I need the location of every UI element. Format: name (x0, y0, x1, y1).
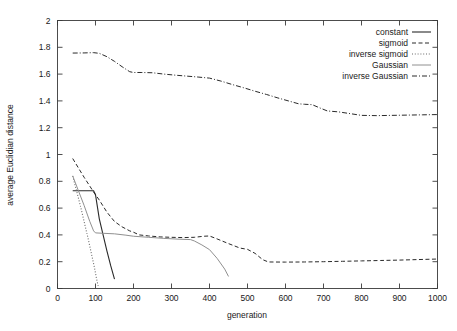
x-tick-label: 1000 (428, 293, 447, 303)
legend-label-inverse-gaussian: inverse Gaussian (342, 71, 408, 81)
x-tick-label: 500 (240, 293, 254, 303)
x-tick-label: 200 (126, 293, 140, 303)
x-tick-label: 800 (354, 293, 368, 303)
series-line-gaussian (73, 176, 229, 277)
line-chart: 00.20.40.60.811.21.41.61.82 010020030040… (0, 0, 457, 331)
legend-label-sigmoid: sigmoid (379, 38, 409, 48)
series-line-sigmoid (73, 159, 438, 263)
x-tick-label: 100 (88, 293, 102, 303)
x-tick-label: 900 (392, 293, 406, 303)
x-tick-label: 700 (316, 293, 330, 303)
legend-label-inverse-sigmoid: inverse sigmoid (349, 49, 408, 59)
y-tick-label: 0.2 (39, 257, 51, 267)
y-tick-label: 0.8 (39, 176, 51, 186)
x-tick-label: 300 (164, 293, 178, 303)
y-tick-label: 0.4 (39, 230, 51, 240)
chart-figure: 00.20.40.60.811.21.41.61.82 010020030040… (0, 0, 457, 331)
data-series-group (73, 53, 438, 286)
y-tick-label: 0.6 (39, 203, 51, 213)
y-tick-label: 0 (46, 284, 51, 294)
x-tick-label: 0 (55, 293, 60, 303)
x-tick-label: 600 (278, 293, 292, 303)
y-tick-label: 1.6 (39, 69, 51, 79)
series-line-constant (73, 191, 115, 279)
y-tick-label: 2 (46, 16, 51, 26)
y-axis-title: average Euclidian distance (5, 104, 15, 206)
y-tick-label: 1.4 (39, 96, 51, 106)
x-tick-label: 400 (202, 293, 216, 303)
y-tick-label: 1.2 (39, 123, 51, 133)
y-tick-label: 1.8 (39, 42, 51, 52)
y-tick-label: 1 (46, 150, 51, 160)
x-axis-title: generation (227, 310, 267, 320)
legend-label-constant: constant (376, 27, 409, 37)
legend-label-gaussian: Gaussian (372, 60, 408, 70)
chart-legend: constantsigmoidinverse sigmoidGaussianin… (342, 27, 431, 81)
